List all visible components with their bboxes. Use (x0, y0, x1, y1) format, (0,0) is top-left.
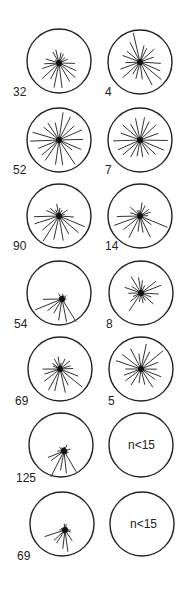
orientation-ray (34, 216, 59, 217)
orientation-ray (122, 354, 141, 369)
rose-hub (56, 137, 62, 143)
orientation-ray (121, 62, 141, 69)
orientation-ray (140, 216, 168, 227)
orientation-ray (30, 140, 59, 141)
n-label: 14 (105, 240, 118, 252)
rose-hub (138, 290, 144, 296)
rose-hub (137, 59, 143, 65)
rose-hub (137, 213, 143, 219)
rose-hub (56, 60, 62, 66)
n-label: 90 (13, 240, 26, 252)
n-label: 69 (15, 395, 28, 407)
orientation-ray (35, 299, 62, 310)
n-label: 4 (105, 86, 112, 98)
orientation-ray (113, 140, 140, 141)
n-label: 8 (106, 318, 113, 330)
rose-hub (61, 448, 67, 454)
rose-hub (62, 527, 68, 533)
orientation-ray (59, 216, 85, 227)
orientation-ray (59, 140, 63, 165)
orientation-ray (59, 139, 83, 140)
n-label: 52 (13, 164, 26, 176)
n-label: 54 (14, 318, 27, 330)
rose-hub (56, 213, 62, 219)
rose-circle-r6c0 (30, 492, 94, 556)
n-label: 69 (17, 550, 30, 562)
orientation-ray (140, 62, 161, 80)
orientation-ray (117, 216, 140, 217)
insufficient-sample-label: n<15 (128, 439, 155, 451)
orientation-ray (140, 140, 168, 141)
rose-hub (137, 137, 143, 143)
orientation-ray (121, 133, 140, 140)
insufficient-sample-label: n<15 (130, 518, 157, 530)
orientation-ray (59, 216, 79, 233)
orientation-ray (123, 216, 140, 230)
n-label: 7 (105, 164, 112, 176)
rose-hub (138, 366, 144, 372)
n-label: 125 (16, 472, 36, 484)
orientation-ray (118, 140, 140, 150)
rose-hub (59, 296, 65, 302)
rose-hub (57, 366, 63, 372)
orientation-ray (59, 130, 82, 140)
orientation-ray (123, 62, 140, 78)
n-label: 32 (13, 86, 26, 98)
orientation-ray (59, 63, 76, 78)
orientation-ray (59, 126, 74, 140)
n-label: 5 (108, 395, 115, 407)
rose-diagram-figure (0, 0, 189, 592)
